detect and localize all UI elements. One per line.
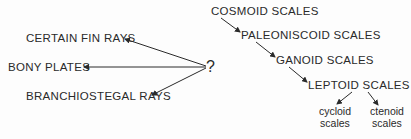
arrow-ganoid-to-leptoid xyxy=(289,67,307,82)
arrow-cosmoid-to-paleoniscoid xyxy=(221,18,240,32)
label-leptoid-scales: LEPTOID SCALES xyxy=(308,80,410,92)
label-ctenoid-scales: ctenoid scales xyxy=(364,106,410,129)
label-certain-fin-rays: CERTAIN FIN RAYS xyxy=(26,33,136,45)
label-bony-plates: BONY PLATES xyxy=(8,62,90,74)
arrow-to-ctenoid xyxy=(368,92,378,105)
label-ganoid-scales: GANOID SCALES xyxy=(276,55,374,67)
scale-evolution-diagram: CERTAIN FIN RAYS BONY PLATES BRANCHIOSTE… xyxy=(0,0,411,139)
label-paleoniscoid-scales: PALEONISCOID SCALES xyxy=(241,30,381,42)
label-cosmoid-scales: COSMOID SCALES xyxy=(211,6,319,18)
label-cycloid-scales: cycloid scales xyxy=(312,106,358,129)
arrow-to-cycloid xyxy=(337,92,352,104)
question-mark: ? xyxy=(206,59,215,75)
label-branchiostegal-rays: BRANCHIOSTEGAL RAYS xyxy=(26,91,171,103)
arrow-paleoniscoid-to-ganoid xyxy=(256,42,275,57)
arrow-to-fin-rays xyxy=(125,39,206,66)
